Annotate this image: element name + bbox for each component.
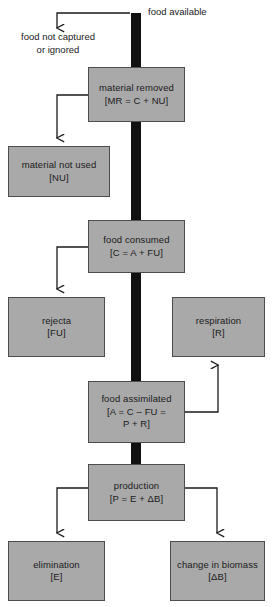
- node-food-consumed[interactable]: food consumed [C = A + FU]: [88, 220, 185, 273]
- node-change-in-biomass[interactable]: change in biomass [ΔB]: [170, 541, 265, 601]
- connector-production-to-change-in-biomass: [185, 488, 217, 533]
- node-food-consumed-line-1: food consumed: [103, 234, 169, 247]
- node-change-in-biomass-line-1: change in biomass: [177, 559, 258, 572]
- node-respiration[interactable]: respiration [R]: [172, 297, 265, 357]
- node-food-consumed-line-2: [C = A + FU]: [110, 247, 163, 260]
- trunk-segment-food-consumed-to-food-assimilated: [131, 271, 141, 383]
- node-food-assimilated[interactable]: food assimilated [A = C – FU = P + R]: [88, 381, 185, 443]
- trunk-segment-material-removed-to-food-consumed: [131, 120, 141, 222]
- node-material-removed-line-1: material removed: [99, 82, 174, 95]
- node-elimination[interactable]: elimination [E]: [8, 541, 105, 601]
- node-material-not-used-line-1: material not used: [22, 159, 97, 172]
- leader-food-available: [57, 13, 130, 28]
- node-food-assimilated-line-3: P + R]: [123, 418, 150, 431]
- label-food-available: food available: [148, 6, 207, 19]
- connector-production-to-elimination: [57, 488, 88, 533]
- node-food-assimilated-line-1: food assimilated: [101, 393, 171, 406]
- node-food-assimilated-line-2: [A = C – FU =: [107, 406, 166, 419]
- node-elimination-line-1: elimination: [33, 559, 80, 572]
- node-respiration-line-1: respiration: [196, 315, 241, 328]
- node-material-not-used[interactable]: material not used [NU]: [8, 146, 110, 197]
- node-elimination-line-2: [E]: [51, 571, 63, 584]
- node-change-in-biomass-line-2: [ΔB]: [208, 571, 226, 584]
- energy-flow-diagram: food available food not captured or igno…: [0, 0, 273, 607]
- node-material-removed-line-2: [MR = C + NU]: [105, 95, 169, 108]
- label-food-not-captured: food not captured or ignored: [4, 31, 112, 56]
- node-respiration-line-2: [R]: [212, 327, 224, 340]
- connector-material-removed-to-material-not-used: [57, 95, 88, 138]
- connector-food-consumed-to-rejecta: [57, 247, 88, 289]
- label-food-not-captured-line-2: or ignored: [4, 44, 112, 57]
- node-rejecta[interactable]: rejecta [FU]: [8, 297, 105, 357]
- node-rejecta-line-2: [FU]: [47, 327, 65, 340]
- connector-food-assimilated-to-respiration: [185, 365, 218, 412]
- label-food-not-captured-line-1: food not captured: [4, 31, 112, 44]
- node-production[interactable]: production [P = E + ΔB]: [88, 464, 185, 521]
- trunk-segment-food-assimilated-to-production: [131, 441, 141, 466]
- node-material-removed[interactable]: material removed [MR = C + NU]: [88, 67, 185, 122]
- trunk-segment-food-available: [131, 13, 141, 69]
- node-production-line-1: production: [114, 480, 159, 493]
- node-material-not-used-line-2: [NU]: [49, 172, 68, 185]
- node-production-line-2: [P = E + ΔB]: [110, 493, 163, 506]
- node-rejecta-line-1: rejecta: [42, 315, 71, 328]
